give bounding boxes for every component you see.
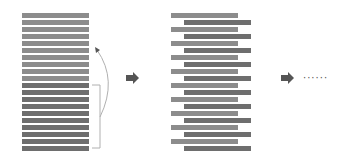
- curved-arrow-head-icon: [95, 47, 100, 53]
- right-arrow-icon: [126, 72, 139, 84]
- connector-overlay: [0, 0, 346, 163]
- bracket-lower-half: [92, 85, 100, 148]
- ellipsis: ······: [303, 73, 328, 83]
- curved-arrow: [97, 50, 108, 117]
- right-arrow-icon: [281, 72, 294, 84]
